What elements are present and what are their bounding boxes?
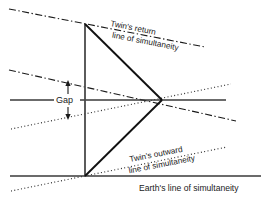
figure-canvas: Twin's return line of simultaneity Twin'…	[0, 0, 268, 197]
spacetime-diagram: Twin's return line of simultaneity Twin'…	[0, 0, 268, 197]
gap-label: Gap	[56, 95, 73, 105]
earth-simultaneity-label: Earth's line of simultaneity	[139, 183, 239, 193]
